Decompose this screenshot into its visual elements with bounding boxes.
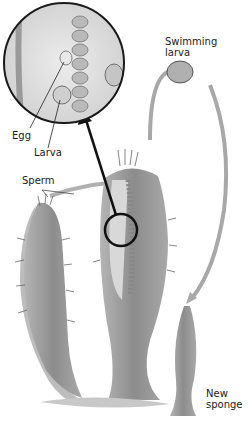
swimming-larva-label-line2: larva [165,47,190,58]
magnified-inset [4,0,124,148]
zoom-pointer-arrow [86,120,116,215]
new-sponge-label-line1: New [206,388,228,399]
sperm-label: Sperm [22,175,55,186]
new-sponge-label-line2: sponge [206,399,243,410]
egg-label: Egg [12,130,31,141]
larva-label: Larva [34,147,62,158]
settling-arrow [192,85,226,298]
swimming-larva-label-line1: Swimming [165,36,217,47]
sponge-reproduction-diagram [0,0,251,422]
swimming-larva [167,61,193,83]
left-sponge [15,194,82,402]
new-sponge [170,306,196,416]
